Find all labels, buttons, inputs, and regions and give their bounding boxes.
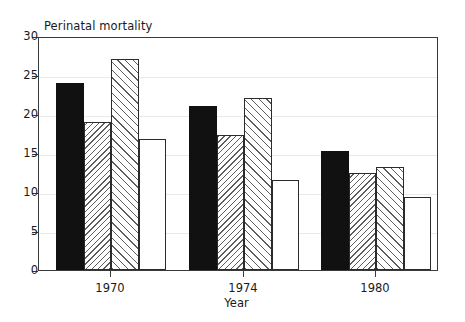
y-axis: 051015202530: [0, 0, 38, 322]
bar-1980-series-4: [404, 197, 432, 270]
x-tick-label-1970: 1970: [80, 281, 140, 295]
bar-1974-series-1: [189, 106, 217, 270]
x-axis-title-label: Year: [224, 296, 248, 310]
bar-1970-series-4: [139, 139, 167, 270]
bar-1974-series-2: [217, 135, 245, 270]
perinatal-mortality-bar-chart: Perinatal mortality 051015202530 Year 19…: [0, 0, 465, 322]
bar-1980-series-1: [321, 151, 349, 270]
x-tick-mark: [243, 271, 244, 277]
bar-1970-series-2: [84, 122, 112, 270]
x-axis-title: Year: [0, 296, 465, 310]
bar-1974-series-4: [272, 180, 300, 270]
bar-1970-series-3: [111, 59, 139, 270]
bar-1970-series-1: [56, 83, 84, 270]
x-tick-mark: [375, 271, 376, 277]
bar-1974-series-3: [244, 98, 272, 270]
y-axis-title: Perinatal mortality: [44, 19, 152, 33]
bar-1980-series-2: [349, 173, 377, 271]
y-tick-label: 25: [10, 70, 38, 82]
y-tick-label: 5: [10, 226, 38, 238]
y-tick-label: 15: [10, 148, 38, 160]
x-tick-label-1980: 1980: [345, 281, 405, 295]
gridline: [39, 116, 437, 117]
plot-area: [38, 37, 438, 271]
y-tick-label: 0: [10, 265, 38, 277]
bar-1980-series-3: [376, 167, 404, 270]
y-tick-label: 20: [10, 109, 38, 121]
y-tick-label: 10: [10, 187, 38, 199]
x-tick-mark: [110, 271, 111, 277]
gridline: [39, 77, 437, 78]
x-tick-label-1974: 1974: [213, 281, 273, 295]
y-tick-label: 30: [10, 31, 38, 43]
